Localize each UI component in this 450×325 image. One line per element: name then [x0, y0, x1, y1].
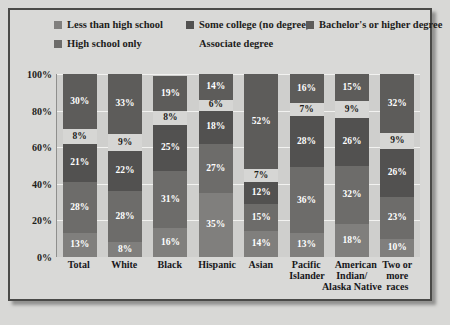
- bar-segment[interactable]: 6%: [199, 100, 233, 111]
- bar-segment-label: 6%: [209, 100, 223, 110]
- x-axis-label-line: Islander: [289, 270, 323, 281]
- x-axis-tick-label: Total: [62, 259, 96, 299]
- bar-segment-label: 26%: [388, 168, 407, 178]
- x-axis-label-line: Black: [158, 259, 182, 270]
- bar-segment[interactable]: 26%: [380, 149, 414, 197]
- bar-segment-label: 35%: [206, 220, 225, 230]
- bar-segment[interactable]: 28%: [290, 116, 324, 167]
- bar-segment[interactable]: 8%: [153, 111, 187, 126]
- x-axis-tick-label: AmericanIndian/Alaska Native: [335, 259, 369, 299]
- bar-segment[interactable]: 13%: [63, 233, 97, 257]
- bar-segment-label: 27%: [206, 164, 225, 174]
- bar-segment-label: 22%: [116, 166, 135, 176]
- bar-segment-label: 8%: [163, 113, 177, 123]
- legend-swatch-icon: [186, 21, 194, 29]
- bar-segment[interactable]: 33%: [108, 74, 142, 134]
- bar-segment-label: 8%: [73, 132, 87, 142]
- bar-column[interactable]: 16%7%28%36%13%: [290, 74, 324, 257]
- bar-segment-label: 18%: [206, 122, 225, 132]
- bar-segment-label: 16%: [161, 238, 180, 248]
- legend-item-high-school-only[interactable]: High school only: [54, 39, 142, 50]
- bar-segment-label: 12%: [252, 188, 271, 198]
- x-axis: TotalWhiteBlackHispanicAsianPacificIslan…: [56, 259, 420, 299]
- bar-segment[interactable]: 16%: [290, 74, 324, 103]
- bar-column[interactable]: 19%8%25%31%16%: [153, 74, 187, 257]
- legend-item-some-college[interactable]: Some college (no degree): [186, 20, 309, 31]
- bar-segment[interactable]: 28%: [63, 182, 97, 233]
- x-axis-tick-label: Hispanic: [198, 259, 232, 299]
- bar-segment[interactable]: 35%: [199, 193, 233, 257]
- bar-segment-label: 28%: [116, 212, 135, 222]
- bar-segment[interactable]: 23%: [380, 197, 414, 239]
- x-axis-label-line: Indian/: [335, 270, 369, 281]
- legend-item-less-than-high-school[interactable]: Less than high school: [54, 20, 163, 31]
- legend-row-1: Less than high school Some college (no d…: [10, 20, 430, 38]
- y-axis-tick-label: 80%: [14, 105, 52, 116]
- bar-column[interactable]: 14%6%18%27%35%: [199, 74, 233, 257]
- bar-segment[interactable]: 7%: [290, 103, 324, 116]
- bar-segment-label: 9%: [118, 138, 132, 148]
- bar-segment-label: 7%: [254, 171, 268, 181]
- bar-segment[interactable]: 8%: [63, 129, 97, 144]
- chart-legend: Less than high school Some college (no d…: [10, 20, 430, 68]
- bar-column[interactable]: 15%9%26%32%18%: [335, 74, 369, 257]
- plot-area: 30%8%21%28%13%33%9%22%28%8%19%8%25%31%16…: [56, 74, 420, 257]
- bar-segment[interactable]: 15%: [335, 74, 369, 101]
- bar-segment[interactable]: 15%: [244, 204, 278, 231]
- bar-segment[interactable]: 32%: [380, 74, 414, 133]
- x-axis-label-line: Hispanic: [198, 259, 236, 270]
- bar-segment[interactable]: 12%: [244, 182, 278, 204]
- bar-column[interactable]: 32%9%26%23%10%: [380, 74, 414, 257]
- bar-segment-label: 13%: [297, 240, 316, 250]
- bar-segment-label: 52%: [252, 117, 271, 127]
- bar-segment[interactable]: 52%: [244, 74, 278, 169]
- legend-item-label: Bachelor's or higher degree: [319, 20, 442, 31]
- bar-segment-label: 30%: [70, 97, 89, 107]
- y-axis-tick-label: 100%: [14, 69, 52, 80]
- chart-frame: Less than high school Some college (no d…: [8, 8, 432, 301]
- bar-segment[interactable]: 26%: [335, 118, 369, 166]
- y-axis: 0%20%40%60%80%100%: [14, 74, 52, 257]
- bar-segment[interactable]: 9%: [108, 134, 142, 150]
- x-axis-tick-label: Two ormore races: [380, 259, 414, 299]
- bar-segment[interactable]: 30%: [63, 74, 97, 129]
- bar-column[interactable]: 33%9%22%28%8%: [108, 74, 142, 257]
- bar-column[interactable]: 30%8%21%28%13%: [63, 74, 97, 257]
- bar-segment-label: 33%: [116, 99, 135, 109]
- bar-segment[interactable]: 19%: [153, 76, 187, 111]
- x-axis-label-line: Alaska Native: [318, 281, 386, 292]
- bar-segment[interactable]: 22%: [108, 151, 142, 191]
- bar-segment[interactable]: 31%: [153, 171, 187, 228]
- bar-segment[interactable]: 9%: [335, 101, 369, 117]
- bar-segment[interactable]: 27%: [199, 144, 233, 193]
- x-axis-label-line: Asian: [249, 259, 273, 270]
- bar-segment[interactable]: 10%: [380, 239, 414, 257]
- bar-segment[interactable]: 28%: [108, 191, 142, 242]
- x-axis-label-line: American: [335, 259, 377, 270]
- bar-column[interactable]: 52%7%12%15%14%: [244, 74, 278, 257]
- bar-segment[interactable]: 13%: [290, 233, 324, 257]
- legend-item-associate-degree[interactable]: Associate degree: [186, 39, 273, 50]
- x-axis-label-line: more races: [380, 270, 414, 292]
- bar-group: 30%8%21%28%13%33%9%22%28%8%19%8%25%31%16…: [57, 74, 420, 257]
- bar-segment-label: 25%: [161, 143, 180, 153]
- bar-segment[interactable]: 16%: [153, 228, 187, 257]
- bar-segment[interactable]: 32%: [335, 166, 369, 225]
- bar-segment[interactable]: 14%: [199, 74, 233, 100]
- bar-segment[interactable]: 18%: [199, 111, 233, 144]
- bar-segment-label: 16%: [297, 84, 316, 94]
- x-axis-label-line: Total: [68, 259, 90, 270]
- legend-swatch-icon: [186, 40, 194, 48]
- bar-segment[interactable]: 36%: [290, 167, 324, 233]
- bar-segment-label: 28%: [297, 137, 316, 147]
- bar-segment[interactable]: 25%: [153, 125, 187, 171]
- bar-segment[interactable]: 14%: [244, 231, 278, 257]
- bar-segment[interactable]: 18%: [335, 224, 369, 257]
- bar-segment[interactable]: 9%: [380, 133, 414, 149]
- legend-item-bachelors-or-higher[interactable]: Bachelor's or higher degree: [306, 20, 442, 31]
- bar-segment[interactable]: 21%: [63, 144, 97, 182]
- bar-segment-label: 15%: [342, 83, 361, 93]
- x-axis-tick-label: PacificIslander: [289, 259, 323, 299]
- bar-segment[interactable]: 7%: [244, 169, 278, 182]
- bar-segment[interactable]: 8%: [108, 242, 142, 257]
